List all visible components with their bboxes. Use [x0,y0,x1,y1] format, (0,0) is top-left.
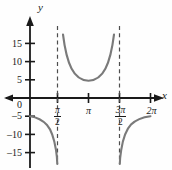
plot-canvas [0,0,172,170]
y-tick-label-minus-10: –10 [0,130,22,140]
x-axis [4,94,164,102]
y-tick-label-minus-5: –5 [0,111,22,121]
y-axis [26,16,34,168]
x-tick-pi-over-2-numerator: π [54,106,61,116]
graph-figure: y x 0 15 10 5 –5 –10 –15 π 2 π 3π 2 2π [0,0,172,170]
y-tick-label-10: 10 [2,57,22,67]
x-tick-3pi-over-2-numerator: 3π [115,106,127,116]
curve-branch-middle [63,35,114,81]
x-tick-3pi-over-2-denominator: 2 [115,118,127,128]
y-axis-label: y [38,2,43,13]
x-tick-label-pi: π [80,106,98,116]
x-tick-label-pi-over-2: π 2 [48,106,68,128]
y-tick-label-15: 15 [2,39,22,49]
origin-label: 0 [8,100,22,110]
x-tick-label-2pi: 2π [142,106,162,116]
curve-group [30,35,151,165]
x-tick-pi-over-2-denominator: 2 [54,118,61,128]
x-axis-label: x [162,90,167,101]
y-tick-label-5: 5 [2,75,22,85]
x-tick-label-3pi-over-2: 3π 2 [109,106,133,128]
y-tick-label-minus-15: –15 [0,148,22,158]
